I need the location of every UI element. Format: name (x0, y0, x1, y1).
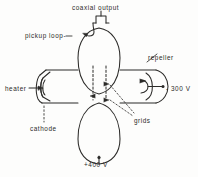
label-repeller: repeller (148, 55, 174, 61)
label-pickup-loop: pickup loop- (25, 33, 66, 39)
lower-cavity-outline (78, 103, 120, 164)
label-heater: heater (5, 86, 26, 92)
label-coaxial-output: coaxial output (72, 5, 119, 11)
grid-arrowhead-lower (104, 98, 109, 102)
repeller-terminal-dot (162, 85, 165, 88)
label-cathode: cathode (30, 126, 57, 132)
repeller-electrode-hook-fill (140, 79, 146, 83)
upper-cavity-outline (78, 28, 120, 94)
gun-body-left-top-chamfer (40, 70, 46, 75)
coaxial-output-connector (96, 16, 106, 23)
klystron-diagram-figure: coaxial output pickup loop- repeller hea… (0, 0, 198, 177)
label-repeller-voltage: - 300 V (166, 86, 190, 92)
anode-terminal-dot (97, 156, 100, 159)
grid-arrowhead-upper (104, 82, 109, 86)
label-anode-voltage: +400 V (84, 162, 108, 168)
label-grids: grids (134, 118, 151, 124)
cathode-inner-curve (43, 80, 45, 95)
